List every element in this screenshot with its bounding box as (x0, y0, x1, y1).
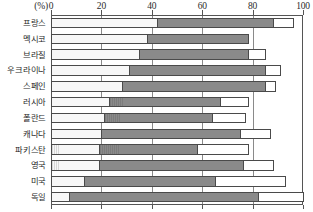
category-labels: 프랑스멕시코브라질우크라이나스페인러시아폴란드캐나다파키스탄영국미국독일 (0, 16, 48, 205)
x-tick-mark-bottom (253, 205, 254, 209)
bar-row (51, 81, 303, 92)
bar-segment-2 (84, 176, 216, 187)
x-tick-mark (253, 10, 254, 15)
x-tick-mark-bottom (152, 205, 153, 209)
x-tick-mark-bottom (303, 205, 304, 209)
bar-segment-2 (129, 65, 266, 76)
category-label: 스페인 (23, 82, 46, 91)
bar-row (51, 65, 303, 76)
x-tick-mark (51, 10, 52, 15)
category-label: 영국 (31, 161, 46, 170)
bar-segment-1 (51, 192, 70, 203)
bar-segment-1 (51, 97, 110, 108)
bar-segment-2 (122, 81, 267, 92)
bar-segment-3 (243, 160, 274, 171)
bar-segment-2 (157, 18, 274, 29)
category-label: 폴란드 (23, 114, 46, 123)
bar-segment-2 (139, 49, 248, 60)
bar-row (51, 113, 303, 124)
category-label: 우크라이나 (7, 66, 46, 75)
category-label: 멕시코 (23, 35, 46, 44)
x-tick-mark (202, 10, 203, 15)
bar-segment-3 (248, 49, 267, 60)
bar-segment-2 (109, 97, 221, 108)
bar-row (51, 129, 303, 140)
bar-segment-2 (99, 160, 244, 171)
x-axis-tick-labels: 020406080100 (0, 1, 313, 13)
bar-segment-1 (51, 129, 102, 140)
bar-segment-2 (147, 34, 249, 45)
bar-segment-1 (51, 34, 148, 45)
bar-segment-1 (51, 113, 105, 124)
bar-segment-1 (51, 176, 85, 187)
category-label: 러시아 (23, 98, 46, 107)
bar-row (51, 49, 303, 60)
bar-row (51, 34, 303, 45)
bar-segment-1 (51, 160, 100, 171)
x-tick-mark (101, 10, 102, 15)
bar-segment-1 (51, 18, 158, 29)
bar-segment-3 (220, 97, 249, 108)
x-tick-mark (303, 10, 304, 15)
bar-segment-1 (51, 49, 140, 60)
bar-segment-2 (101, 129, 241, 140)
x-tick-mark-bottom (51, 205, 52, 209)
bar-segment-3 (197, 144, 248, 155)
bar-row (51, 160, 303, 171)
bar-segment-2 (104, 113, 213, 124)
bar-segment-3 (273, 18, 294, 29)
bar-segment-3 (265, 65, 281, 76)
category-label: 프랑스 (23, 19, 46, 28)
category-label: 파키스탄 (15, 146, 46, 155)
x-tick-mark-bottom (101, 205, 102, 209)
x-tick-mark (152, 10, 153, 15)
bar-row (51, 192, 303, 203)
bar-segment-3 (258, 192, 304, 203)
bar-segment-1 (51, 65, 130, 76)
bar-segment-3 (240, 129, 271, 140)
x-tick-mark-bottom (202, 205, 203, 209)
bar-segment-1 (51, 144, 100, 155)
bar-row (51, 176, 303, 187)
bar-row (51, 144, 303, 155)
bars-layer (51, 15, 303, 205)
bar-row (51, 97, 303, 108)
bar-segment-3 (212, 113, 246, 124)
bar-row (51, 18, 303, 29)
category-label: 미국 (31, 177, 46, 186)
stacked-bar-chart: (%) 020406080100 프랑스멕시코브라질우크라이나스페인러시아폴란드… (0, 0, 313, 212)
category-label: 독일 (31, 193, 46, 202)
bar-segment-3 (215, 176, 287, 187)
category-label: 캐나다 (23, 130, 46, 139)
category-label: 브라질 (23, 51, 46, 60)
bar-segment-3 (265, 81, 276, 92)
bar-segment-2 (99, 144, 198, 155)
bar-segment-1 (51, 81, 123, 92)
bar-segment-2 (69, 192, 259, 203)
